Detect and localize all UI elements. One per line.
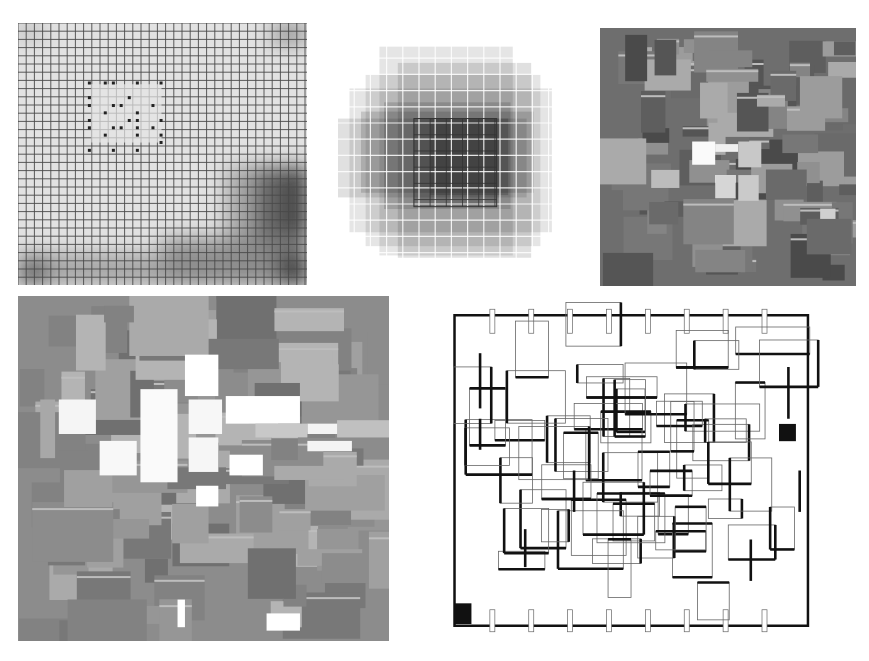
grid-gradient-graphic: [18, 23, 307, 285]
panel-grid-gradient: [18, 23, 307, 285]
gray-tiles-large-graphic: [18, 296, 389, 641]
gray-tiles-small-graphic: [600, 28, 856, 286]
panel-radial-squares: [338, 42, 568, 274]
panel-gray-tiles-large: [18, 296, 389, 641]
panel-gray-tiles-small: [600, 28, 856, 286]
floor-plan-graphic: [450, 298, 826, 643]
panel-floor-plan: [450, 298, 826, 643]
radial-squares-graphic: [338, 42, 568, 274]
